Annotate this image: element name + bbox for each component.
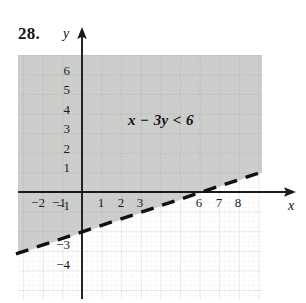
y-tick-label-2: 2 bbox=[56, 141, 70, 157]
x-tick-label-6: 6 bbox=[192, 195, 206, 211]
y-tick-label-neg4: −4 bbox=[52, 257, 70, 273]
y-axis-label: y bbox=[63, 26, 69, 42]
x-tick-label-2: 2 bbox=[114, 195, 128, 211]
coordinate-plane bbox=[0, 0, 306, 303]
x-axis-label: x bbox=[288, 198, 294, 214]
y-tick-label-3: 3 bbox=[56, 121, 70, 137]
y-tick-label-1: 1 bbox=[56, 160, 70, 176]
graph-figure: 28. bbox=[0, 0, 306, 303]
x-tick-label-7: 7 bbox=[212, 195, 226, 211]
x-tick-label-8: 8 bbox=[231, 195, 245, 211]
inequality-annotation: x − 3y < 6 bbox=[128, 112, 194, 129]
y-tick-label-4: 4 bbox=[56, 102, 70, 118]
y-tick-label-neg3: −3 bbox=[52, 237, 70, 253]
y-tick-label-5: 5 bbox=[56, 82, 70, 98]
problem-number: 28. bbox=[18, 24, 40, 44]
y-tick-label-6: 6 bbox=[56, 63, 70, 79]
x-tick-label-1: 1 bbox=[94, 195, 108, 211]
x-tick-label-neg1: −1 bbox=[50, 195, 68, 211]
x-tick-label-neg2: −2 bbox=[29, 195, 47, 211]
x-tick-label-3: 3 bbox=[133, 195, 147, 211]
